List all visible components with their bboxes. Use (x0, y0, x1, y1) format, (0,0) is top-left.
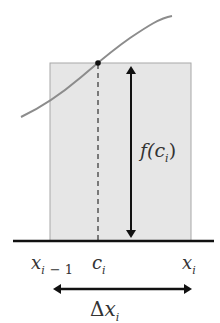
right-endpoint-label: xi (182, 252, 196, 277)
riemann-rectangle-diagram: f(ci) xi− 1 ci xi Δxi (0, 0, 220, 323)
width-label: Δxi (90, 297, 119, 323)
sample-point-dot (95, 60, 101, 66)
left-endpoint-label: xi− 1 (31, 252, 73, 277)
sample-point-label: ci (92, 252, 106, 277)
